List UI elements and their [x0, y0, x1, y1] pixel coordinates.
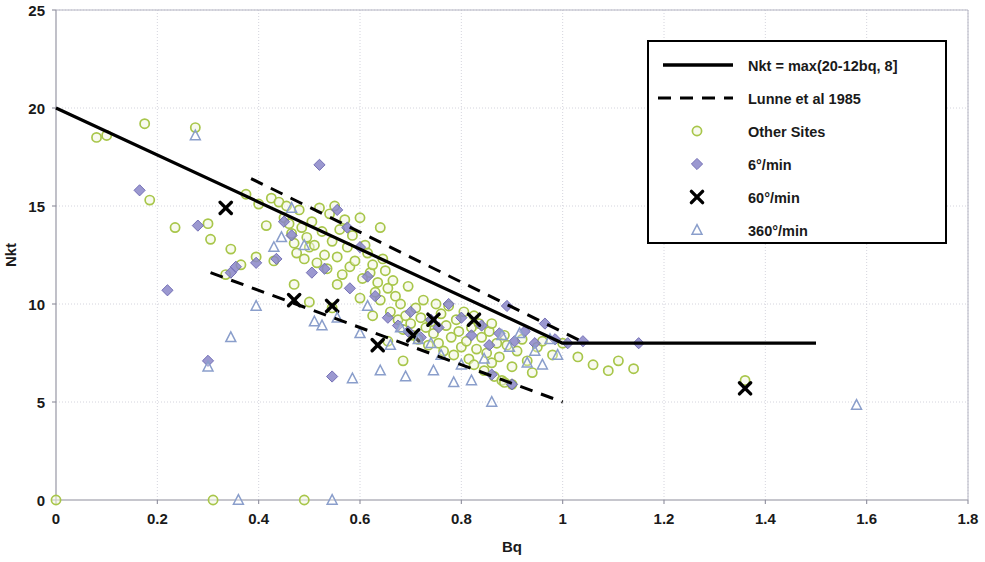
x-tick-label: 1 [558, 510, 566, 527]
marker-circle [692, 126, 701, 135]
x-tick-label: 0.6 [350, 510, 371, 527]
marker-circle [588, 360, 597, 369]
marker-triangle [233, 495, 243, 505]
marker-triangle [327, 495, 337, 505]
marker-triangle [347, 373, 357, 383]
marker-triangle [466, 375, 476, 385]
x-tick-label: 1.4 [755, 510, 777, 527]
marker-circle [454, 327, 463, 336]
chart-container: 00.20.40.60.811.21.41.61.8 0510152025 Bq… [0, 0, 985, 562]
x-tick-label: 1.6 [856, 510, 877, 527]
y-tick-label: 0 [37, 492, 45, 509]
series-other-sites [51, 119, 749, 505]
marker-circle [528, 368, 537, 377]
y-axis-tick-labels: 0510152025 [28, 2, 45, 509]
y-tick-label: 10 [28, 296, 45, 313]
x-tick-label: 1.2 [654, 510, 675, 527]
marker-circle [416, 313, 425, 322]
legend: Nkt = max(20-12bq, 8]Lunne et al 1985Oth… [648, 41, 946, 243]
x-tick-label: 0.2 [147, 510, 168, 527]
marker-diamond [306, 267, 317, 278]
marker-circle [290, 280, 299, 289]
marker-circle [305, 297, 314, 306]
marker-diamond [314, 159, 325, 170]
legend-label: Lunne et al 1985 [748, 91, 861, 107]
x-tick-label: 0.8 [451, 510, 472, 527]
marker-triangle [276, 232, 286, 242]
marker-cross [372, 340, 383, 351]
legend-label: 6°/min [748, 157, 792, 173]
marker-diamond [344, 283, 355, 294]
marker-triangle [363, 301, 373, 311]
marker-circle [203, 219, 212, 228]
marker-circle [350, 256, 359, 265]
y-axis-title: Nkt [2, 243, 19, 267]
legend-label: Nkt = max(20-12bq, 8] [748, 58, 898, 74]
marker-circle [469, 360, 478, 369]
marker-triangle [428, 365, 438, 375]
marker-triangle [537, 359, 547, 369]
x-tick-label: 0 [52, 510, 60, 527]
y-tick-label: 20 [28, 100, 45, 117]
marker-circle [376, 223, 385, 232]
marker-circle [381, 266, 390, 275]
marker-circle [338, 270, 347, 279]
marker-circle [348, 231, 357, 240]
marker-circle [208, 495, 217, 504]
marker-circle [573, 352, 582, 361]
marker-circle [310, 241, 319, 250]
marker-circle [419, 295, 428, 304]
marker-circle [398, 356, 407, 365]
marker-circle [604, 366, 613, 375]
marker-triangle [401, 371, 411, 381]
marker-triangle [226, 332, 236, 342]
x-tick-label: 1.8 [958, 510, 979, 527]
marker-triangle [309, 316, 319, 326]
marker-circle [487, 319, 496, 328]
marker-circle [92, 133, 101, 142]
marker-circle [51, 495, 60, 504]
marker-circle [355, 213, 364, 222]
legend-label: 360°/min [748, 223, 808, 239]
marker-triangle [269, 242, 279, 252]
scatter-plot-svg: 00.20.40.60.811.21.41.61.8 0510152025 Bq… [0, 0, 985, 562]
marker-circle [507, 362, 516, 371]
marker-diamond [192, 220, 203, 231]
marker-circle [368, 260, 377, 269]
marker-diamond [327, 371, 338, 382]
marker-triangle [375, 365, 385, 375]
marker-cross [220, 202, 231, 213]
x-axis-title: Bq [502, 538, 522, 555]
y-tick-label: 15 [28, 198, 45, 215]
marker-circle [614, 356, 623, 365]
marker-circle [495, 352, 504, 361]
x-tick-label: 0.4 [248, 510, 270, 527]
marker-circle [449, 350, 458, 359]
marker-circle [300, 495, 309, 504]
marker-circle [145, 196, 154, 205]
marker-triangle [251, 301, 261, 311]
marker-triangle [487, 397, 497, 407]
marker-circle [629, 364, 638, 373]
marker-circle [300, 254, 309, 263]
marker-circle [170, 223, 179, 232]
marker-circle [262, 221, 271, 230]
legend-label: Other Sites [748, 124, 825, 140]
marker-circle [396, 299, 405, 308]
marker-circle [333, 252, 342, 261]
marker-circle [373, 278, 382, 287]
marker-circle [320, 250, 329, 259]
marker-circle [333, 280, 342, 289]
marker-circle [312, 258, 321, 267]
marker-circle [206, 235, 215, 244]
marker-triangle [852, 400, 862, 410]
marker-circle [140, 119, 149, 128]
marker-circle [404, 282, 413, 291]
marker-circle [388, 276, 397, 285]
y-tick-label: 25 [28, 2, 45, 19]
marker-circle [226, 245, 235, 254]
marker-diamond [577, 336, 588, 347]
marker-circle [472, 344, 481, 353]
series-6-min [134, 159, 644, 390]
y-tick-label: 5 [37, 394, 45, 411]
